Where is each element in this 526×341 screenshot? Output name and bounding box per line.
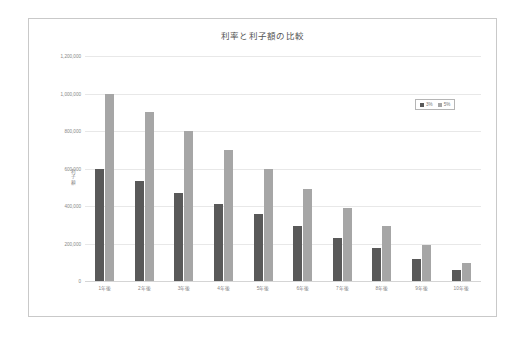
y-axis-tick-label: 200,000 <box>35 241 81 246</box>
legend-color-swatch <box>420 103 424 107</box>
bar[interactable] <box>462 263 471 281</box>
x-axis-tick-label: 3年後 <box>164 284 204 291</box>
chart-title: 利率と利子額の比較 <box>29 29 496 41</box>
bar[interactable] <box>105 94 114 282</box>
x-axis-tick-labels: 1年後2年後3年後4年後5年後6年後7年後8年後9年後10年後 <box>85 284 481 291</box>
bar-group <box>323 56 363 281</box>
x-axis-tick-label: 7年後 <box>323 284 363 291</box>
y-axis-tick-label: 800,000 <box>35 129 81 134</box>
y-axis-tick-label: 600,000 <box>35 166 81 171</box>
bar[interactable] <box>254 214 263 281</box>
bar[interactable] <box>95 169 104 282</box>
bar[interactable] <box>372 248 381 281</box>
screenshot-canvas: 利率と利子額の比較 利子額 1,200,0001,000,000800,0006… <box>0 0 526 341</box>
bar[interactable] <box>412 259 421 281</box>
x-axis-tick-label: 10年後 <box>441 284 481 291</box>
bar[interactable] <box>422 245 431 281</box>
y-axis-tick-label: 400,000 <box>35 204 81 209</box>
bar-group <box>441 56 481 281</box>
x-axis-tick-label: 5年後 <box>243 284 283 291</box>
y-axis-tick-labels: 1,200,0001,000,000800,000600,000400,0002… <box>33 56 81 281</box>
bar[interactable] <box>184 131 193 281</box>
bar-group <box>204 56 244 281</box>
bar[interactable] <box>293 226 302 281</box>
bar-group <box>362 56 402 281</box>
bar-group <box>243 56 283 281</box>
x-axis-tick-label: 9年後 <box>402 284 442 291</box>
bar-group <box>125 56 165 281</box>
bar-group <box>85 56 125 281</box>
legend-color-swatch <box>438 103 442 107</box>
bar-group <box>402 56 442 281</box>
bar-series-container <box>85 56 481 281</box>
bar[interactable] <box>214 204 223 281</box>
x-axis-tick-label: 1年後 <box>85 284 125 291</box>
legend-entry[interactable]: 5% <box>438 102 451 107</box>
bar-group <box>164 56 204 281</box>
x-axis-tick-label: 2年後 <box>125 284 165 291</box>
bar[interactable] <box>264 169 273 281</box>
bar[interactable] <box>452 270 461 281</box>
x-axis-tick-label: 6年後 <box>283 284 323 291</box>
y-axis-tick-label: 0 <box>35 279 81 284</box>
bar[interactable] <box>343 208 352 281</box>
bar[interactable] <box>333 238 342 282</box>
chart-legend[interactable]: 3%5% <box>415 99 455 110</box>
legend-entry[interactable]: 3% <box>420 102 433 107</box>
bar-group <box>283 56 323 281</box>
x-axis-tick-label: 8年後 <box>362 284 402 291</box>
bar[interactable] <box>174 193 183 281</box>
x-axis-tick-label: 4年後 <box>204 284 244 291</box>
bar[interactable] <box>135 181 144 281</box>
axis-baseline <box>85 281 481 282</box>
bar[interactable] <box>224 150 233 281</box>
bar[interactable] <box>303 189 312 281</box>
bar[interactable] <box>382 226 391 281</box>
legend-label: 3% <box>426 102 433 107</box>
y-axis-tick-label: 1,200,000 <box>35 54 81 59</box>
chart-object-frame[interactable]: 利率と利子額の比較 利子額 1,200,0001,000,000800,0006… <box>28 18 497 317</box>
y-axis-tick-label: 1,000,000 <box>35 91 81 96</box>
bar[interactable] <box>145 112 154 281</box>
legend-label: 5% <box>444 102 451 107</box>
